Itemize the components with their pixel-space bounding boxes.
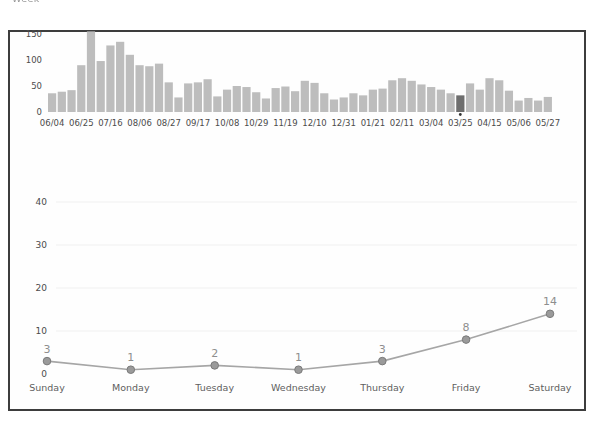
line-chart-y-tick: 0 bbox=[41, 369, 47, 379]
week-bar[interactable] bbox=[388, 80, 396, 112]
week-bar[interactable] bbox=[515, 101, 523, 112]
week-bar[interactable] bbox=[281, 87, 289, 112]
bar-chart-x-tick: 03/04 bbox=[419, 118, 444, 128]
bar-chart-x-tick: 12/10 bbox=[302, 118, 327, 128]
day-axis-label: Wednesday bbox=[271, 382, 326, 393]
week-bar[interactable] bbox=[184, 83, 192, 112]
week-bar[interactable] bbox=[310, 83, 318, 112]
bar-chart-x-tick: 05/06 bbox=[506, 118, 531, 128]
week-bar[interactable] bbox=[242, 87, 250, 112]
week-bar[interactable] bbox=[233, 86, 241, 112]
week-bar[interactable] bbox=[291, 91, 299, 112]
commit-activity-charts: 05010015006/0406/2507/1608/0608/2709/171… bbox=[0, 0, 595, 426]
week-bar[interactable] bbox=[135, 65, 143, 112]
bar-chart-x-tick: 07/16 bbox=[98, 118, 123, 128]
day-point-value-label: 14 bbox=[543, 295, 557, 308]
day-point-thursday bbox=[379, 357, 387, 365]
week-bar[interactable] bbox=[194, 82, 202, 112]
selected-week-caret-dot bbox=[459, 113, 462, 116]
week-bar[interactable] bbox=[301, 81, 309, 112]
week-bar[interactable] bbox=[408, 81, 416, 112]
day-point-value-label: 1 bbox=[295, 351, 302, 364]
day-point-tuesday bbox=[211, 362, 219, 370]
bar-chart-y-tick: 50 bbox=[31, 81, 42, 91]
day-point-wednesday bbox=[295, 366, 303, 374]
day-point-value-label: 3 bbox=[379, 343, 386, 356]
week-bar[interactable] bbox=[77, 65, 85, 112]
week-bar[interactable] bbox=[378, 89, 386, 112]
day-axis-label: Tuesday bbox=[194, 382, 234, 393]
week-bar[interactable] bbox=[437, 90, 445, 112]
bar-chart-x-tick: 10/29 bbox=[244, 118, 269, 128]
week-bar[interactable] bbox=[58, 92, 66, 112]
week-bar[interactable] bbox=[417, 84, 425, 112]
bar-chart-y-tick: 0 bbox=[37, 107, 42, 117]
week-bar[interactable] bbox=[466, 83, 474, 112]
week-bar[interactable] bbox=[340, 97, 348, 112]
bar-chart-x-tick: 10/08 bbox=[215, 118, 240, 128]
week-bar[interactable] bbox=[447, 93, 455, 112]
bar-chart-x-tick: 08/06 bbox=[127, 118, 152, 128]
week-bar[interactable] bbox=[505, 91, 513, 112]
week-bar[interactable] bbox=[544, 97, 552, 112]
week-bar[interactable] bbox=[252, 92, 260, 112]
week-bar[interactable] bbox=[320, 93, 328, 112]
week-bar[interactable] bbox=[204, 79, 212, 112]
week-bar[interactable] bbox=[145, 66, 153, 112]
day-point-saturday bbox=[546, 310, 554, 318]
selected-week-bar[interactable] bbox=[456, 95, 464, 112]
bar-chart-x-tick: 05/27 bbox=[536, 118, 561, 128]
day-axis-label: Sunday bbox=[29, 382, 65, 393]
day-point-sunday bbox=[43, 357, 51, 365]
day-point-value-label: 8 bbox=[463, 321, 470, 334]
day-axis-label: Thursday bbox=[359, 382, 405, 393]
bar-chart-x-tick: 12/31 bbox=[331, 118, 356, 128]
bar-chart-x-tick: 03/25 bbox=[448, 118, 473, 128]
day-point-friday bbox=[462, 336, 470, 344]
week-bar[interactable] bbox=[174, 97, 182, 112]
line-chart-y-tick: 40 bbox=[36, 197, 48, 207]
week-bar[interactable] bbox=[126, 55, 134, 112]
week-bar[interactable] bbox=[67, 90, 75, 112]
day-point-value-label: 2 bbox=[211, 347, 218, 360]
day-point-value-label: 3 bbox=[44, 343, 51, 356]
week-bar[interactable] bbox=[369, 90, 377, 112]
week-bar[interactable] bbox=[155, 64, 163, 112]
week-bar[interactable] bbox=[485, 78, 493, 112]
bar-chart-x-tick: 06/04 bbox=[40, 118, 65, 128]
week-bar[interactable] bbox=[116, 42, 124, 112]
day-point-value-label: 1 bbox=[127, 351, 134, 364]
bar-chart-y-tick: 100 bbox=[26, 55, 42, 65]
bar-chart-x-tick: 09/17 bbox=[186, 118, 211, 128]
bar-chart-x-tick: 01/21 bbox=[361, 118, 386, 128]
week-bar[interactable] bbox=[495, 80, 503, 112]
line-chart-y-tick: 10 bbox=[36, 326, 48, 336]
bar-chart-x-tick: 06/25 bbox=[69, 118, 94, 128]
week-bar[interactable] bbox=[213, 96, 221, 112]
week-bar[interactable] bbox=[262, 98, 270, 112]
day-axis-label: Saturday bbox=[529, 382, 572, 393]
bar-chart-x-tick: 04/15 bbox=[477, 118, 502, 128]
week-bar[interactable] bbox=[359, 95, 367, 112]
day-axis-label: Friday bbox=[452, 382, 481, 393]
week-bar[interactable] bbox=[349, 93, 357, 112]
day-axis-label: Monday bbox=[112, 382, 150, 393]
week-bar[interactable] bbox=[398, 78, 406, 112]
week-bar[interactable] bbox=[272, 88, 280, 112]
week-bar[interactable] bbox=[48, 93, 56, 112]
bar-chart-x-tick: 08/27 bbox=[156, 118, 181, 128]
bar-chart-x-tick: 11/19 bbox=[273, 118, 298, 128]
day-point-monday bbox=[127, 366, 135, 374]
week-bar[interactable] bbox=[87, 31, 95, 112]
week-bar[interactable] bbox=[476, 90, 484, 112]
week-bar[interactable] bbox=[165, 82, 173, 112]
line-chart-y-tick: 30 bbox=[36, 240, 48, 250]
week-bar[interactable] bbox=[534, 101, 542, 112]
week-bar[interactable] bbox=[524, 98, 532, 112]
line-chart-y-tick: 20 bbox=[36, 283, 48, 293]
week-bar[interactable] bbox=[427, 87, 435, 112]
week-bar[interactable] bbox=[330, 100, 338, 112]
week-bar[interactable] bbox=[106, 45, 114, 112]
week-bar[interactable] bbox=[97, 61, 105, 112]
week-bar[interactable] bbox=[223, 90, 231, 112]
